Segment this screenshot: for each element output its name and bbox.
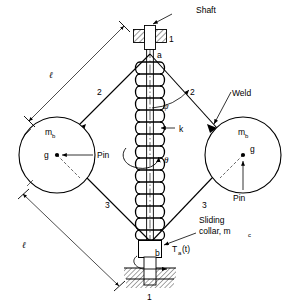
diagram-labels: Shaft 1 a ℓ ℓ 2 2 3 3 Weld m b m b g g P… [0, 0, 287, 303]
label-length-upper: ℓ [49, 70, 53, 80]
label-link-3-left: 3 [105, 200, 110, 210]
label-shaft: Shaft [196, 5, 216, 15]
label-angle-theta: θ [164, 155, 169, 165]
label-sliding-collar: Sliding collar, m c [199, 215, 251, 238]
label-torque: T a (t) [172, 244, 190, 256]
label-cg-left: g [44, 150, 49, 160]
svg-text:c: c [248, 232, 251, 238]
svg-text:T: T [172, 244, 177, 254]
label-spring-constant: k [179, 124, 184, 134]
label-frame-bottom: 1 [147, 292, 152, 302]
label-angle-psi: ψ [163, 101, 169, 111]
label-point-b: b [155, 248, 160, 258]
label-pin-right: Pin [233, 193, 246, 203]
label-frame-top: 1 [169, 34, 174, 44]
svg-text:collar, m: collar, m [199, 226, 231, 236]
label-link-3-right: 3 [202, 200, 207, 210]
label-mass-left: m b [45, 127, 56, 139]
label-cg-right: g [250, 144, 255, 154]
svg-text:b: b [52, 133, 56, 139]
label-point-a: a [157, 50, 162, 60]
label-length-lower: ℓ [22, 240, 26, 250]
label-pin-left: Pin [97, 150, 110, 160]
label-mass-right: m b [238, 127, 249, 139]
svg-text:(t): (t) [182, 244, 190, 254]
svg-text:b: b [245, 133, 249, 139]
label-link-2-left: 2 [97, 87, 102, 97]
label-link-2-right: 2 [190, 87, 195, 97]
svg-text:Sliding: Sliding [199, 215, 225, 225]
governor-diagram: Shaft 1 a ℓ ℓ 2 2 3 3 Weld m b m b g g P… [0, 0, 287, 303]
label-weld: Weld [232, 88, 251, 98]
